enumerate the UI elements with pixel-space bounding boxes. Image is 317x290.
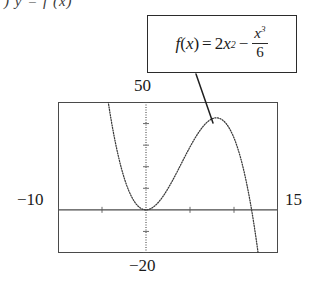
window-label-ymin: −20 [129,256,156,276]
numerator-variable: x [254,25,261,41]
plot-area [58,102,278,253]
function-curve [107,102,260,253]
window-label-xmin: −10 [17,190,44,210]
numerator-exponent: 3 [261,24,266,34]
minus-sign: − [239,34,249,54]
formula-expression: f(x) = 2x2 − x3 6 [148,16,296,72]
figure-canvas: ) y = f (x) f(x) = 2x2 − x3 6 50 −20 −10… [0,0,317,290]
term1-variable: x [223,34,231,54]
fraction-numerator: x3 [252,25,267,42]
formula-callout-box: f(x) = 2x2 − x3 6 [147,15,297,73]
window-label-xmax: 15 [285,190,302,210]
term1-exponent: 2 [231,39,236,50]
window-label-ymax: 50 [134,76,151,96]
fraction-denominator: 6 [254,45,266,61]
equals-sign: = [202,34,212,54]
coefficient-2: 2 [215,34,224,54]
paren-close: ) [193,34,199,54]
fraction-x-cubed-over-6: x3 6 [252,25,267,61]
clipped-header-text: ) y = f (x) [4,0,73,10]
function-argument: x [186,34,194,54]
